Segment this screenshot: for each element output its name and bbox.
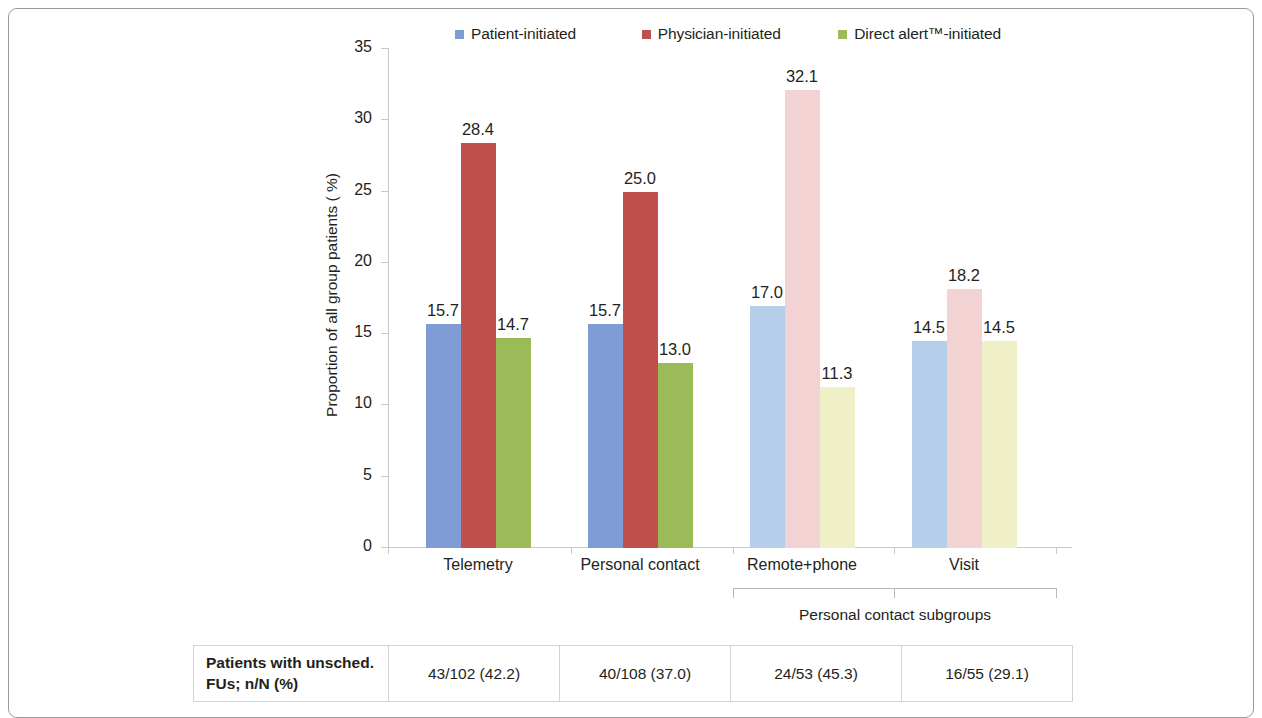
y-axis-tick <box>381 476 388 477</box>
y-axis-tick-label: 0 <box>332 537 372 555</box>
bar <box>426 324 461 548</box>
y-axis-tick <box>381 333 388 334</box>
legend-item-physician-initiated: Physician-initiated <box>642 23 839 45</box>
x-axis-category-label: Remote+phone <box>712 556 892 574</box>
table-cell-visit: 16/55 (29.1) <box>902 646 1073 702</box>
x-axis-tick <box>1056 548 1057 554</box>
subgroup-bracket <box>733 588 1057 598</box>
bar-value-label: 11.3 <box>822 364 853 383</box>
bar-wrap: 13.0 <box>658 48 693 548</box>
y-axis-tick <box>381 119 388 120</box>
x-axis-tick <box>733 548 734 554</box>
bar-wrap: 11.3 <box>820 48 855 548</box>
legend-item-direct-alert-initiated: Direct alert™-initiated <box>838 23 1025 45</box>
bar <box>912 341 947 548</box>
table-row: Patients with unsched. FUs; n/N (%) 43/1… <box>194 646 1073 702</box>
legend-item-patient-initiated: Patient-initiated <box>455 23 642 45</box>
bar <box>623 192 658 548</box>
legend-swatch-icon <box>642 30 651 39</box>
bar-wrap: 14.7 <box>496 48 531 548</box>
bar-wrap: 14.5 <box>982 48 1017 548</box>
legend-swatch-icon <box>455 30 464 39</box>
table-cell-telemetry: 43/102 (42.2) <box>389 646 560 702</box>
bar-value-label: 14.7 <box>497 315 529 334</box>
bar <box>750 306 785 548</box>
y-axis-title: Proportion of all group patients ( %) <box>316 150 348 440</box>
x-axis-tick <box>894 548 895 554</box>
summary-table: Patients with unsched. FUs; n/N (%) 43/1… <box>193 645 1073 702</box>
legend-label: Physician-initiated <box>658 25 781 43</box>
bar-value-label: 13.0 <box>659 340 691 359</box>
bar-wrap: 15.7 <box>426 48 461 548</box>
table-cell-remote-phone: 24/53 (45.3) <box>731 646 902 702</box>
bar-value-label: 15.7 <box>427 301 459 320</box>
bar-group-personal-contact: 15.725.013.0 <box>588 48 693 548</box>
y-axis-tick <box>381 262 388 263</box>
y-axis-tick <box>381 191 388 192</box>
subgroup-bracket-stem <box>894 588 895 598</box>
chart-legend: Patient-initiated Physician-initiated Di… <box>455 23 1025 45</box>
bar <box>496 338 531 548</box>
bar-value-label: 32.1 <box>786 67 818 86</box>
legend-swatch-icon <box>838 30 847 39</box>
x-axis-tick <box>571 548 572 554</box>
x-axis-tick <box>388 548 389 554</box>
bar-wrap: 28.4 <box>461 48 496 548</box>
y-axis-tick-label: 35 <box>332 38 372 56</box>
bar-group-visit: 14.518.214.5 <box>912 48 1017 548</box>
bar <box>658 363 693 548</box>
x-axis-category-label: Visit <box>874 556 1054 574</box>
bar-group-remote-phone: 17.032.111.3 <box>750 48 855 548</box>
y-axis-title-text: Proportion of all group patients ( %) <box>323 173 341 417</box>
table-cell-personal-contact: 40/108 (37.0) <box>560 646 731 702</box>
x-axis-category-label: Personal contact <box>550 556 730 574</box>
table-row-header-line2: FUs; n/N (%) <box>206 675 298 692</box>
bar-wrap: 18.2 <box>947 48 982 548</box>
y-axis-tick-label: 5 <box>332 466 372 484</box>
bar <box>982 341 1017 548</box>
bar <box>461 143 496 548</box>
bar-wrap: 17.0 <box>750 48 785 548</box>
table-row-header: Patients with unsched. FUs; n/N (%) <box>194 646 389 702</box>
y-axis-tick <box>381 48 388 49</box>
bar <box>588 324 623 548</box>
bar <box>785 90 820 548</box>
subgroup-bracket-label: Personal contact subgroups <box>733 606 1057 624</box>
bar-value-label: 17.0 <box>751 283 783 302</box>
x-axis-category-label: Telemetry <box>388 556 568 574</box>
legend-label: Patient-initiated <box>471 25 576 43</box>
legend-label: Direct alert™-initiated <box>854 25 1001 43</box>
bar <box>947 289 982 548</box>
y-axis-tick <box>381 547 388 548</box>
bar-value-label: 14.5 <box>913 318 945 337</box>
bar-wrap: 15.7 <box>588 48 623 548</box>
bar-wrap: 25.0 <box>623 48 658 548</box>
bar-wrap: 14.5 <box>912 48 947 548</box>
bar-value-label: 18.2 <box>948 266 980 285</box>
bar-value-label: 25.0 <box>624 169 656 188</box>
bar-wrap: 32.1 <box>785 48 820 548</box>
plot-area: 15.728.414.715.725.013.017.032.111.314.5… <box>388 48 1072 548</box>
bar-value-label: 28.4 <box>462 120 494 139</box>
bar-value-label: 15.7 <box>589 301 621 320</box>
y-axis-tick-label: 30 <box>332 109 372 127</box>
table-row-header-line1: Patients with unsched. <box>206 654 374 671</box>
bar <box>820 387 855 548</box>
y-axis-tick <box>381 404 388 405</box>
bar-value-label: 14.5 <box>983 318 1015 337</box>
bar-group-telemetry: 15.728.414.7 <box>426 48 531 548</box>
